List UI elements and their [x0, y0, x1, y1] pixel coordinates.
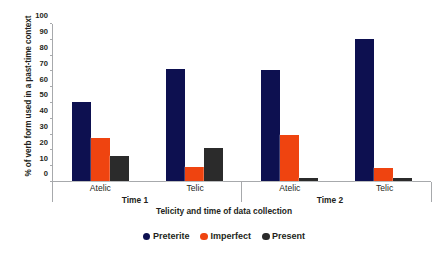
bar-present	[204, 148, 223, 181]
bar-present	[299, 178, 318, 181]
bar-group	[148, 24, 243, 181]
legend-item: Preterite	[143, 232, 190, 241]
x-axis-title: Telicity and time of data collection	[0, 207, 448, 215]
y-axis-tick-label: 20	[40, 139, 48, 147]
y-axis-title: % of verb form used in a past-time conte…	[25, 1, 33, 191]
time-group-separator-right	[431, 182, 432, 202]
time-group-separator-left	[52, 182, 53, 202]
bar-imperfect	[280, 135, 299, 181]
category-labels: AtelicTelicAtelicTelic	[53, 184, 432, 193]
y-axis-tick-label: 10	[40, 155, 48, 163]
legend-swatch-icon	[200, 233, 208, 241]
y-axis-tick-mark	[50, 118, 53, 119]
category-label: Atelic	[53, 184, 148, 193]
time-group-label-2: Time 2	[300, 196, 360, 204]
legend-item: Present	[262, 232, 305, 241]
legend-label: Imperfect	[210, 232, 251, 241]
y-axis-tick-mark	[50, 102, 53, 103]
bar-group	[53, 24, 148, 181]
bar-preterite	[72, 102, 91, 181]
time-group-label-1: Time 1	[105, 196, 165, 204]
bar-preterite	[166, 69, 185, 181]
y-axis-tick-label: 60	[40, 76, 48, 84]
y-axis-tick-label: 70	[40, 60, 48, 68]
y-axis-tick-label: 90	[40, 28, 48, 36]
bar-chart: % of verb form used in a past-time conte…	[0, 0, 448, 257]
chart-legend: PreteriteImperfectPresent	[0, 232, 448, 241]
y-axis-tick-mark	[50, 165, 53, 166]
y-axis-tick-mark	[50, 39, 53, 40]
bar-preterite	[355, 39, 374, 181]
bar-present	[393, 178, 412, 181]
y-axis-tick-mark	[50, 149, 53, 150]
time-group-separator-middle	[241, 182, 242, 202]
y-axis-tick-label: 80	[40, 44, 48, 52]
legend-label: Preterite	[153, 232, 190, 241]
bar-group	[242, 24, 337, 181]
y-axis-tick-mark	[50, 23, 53, 24]
bars-layer	[53, 24, 431, 181]
y-axis-tick-label: 0	[44, 171, 48, 179]
y-axis-tick-mark	[50, 70, 53, 71]
y-axis-tick-mark	[50, 134, 53, 135]
legend-swatch-icon	[262, 233, 270, 241]
legend-item: Imperfect	[200, 232, 251, 241]
bar-present	[110, 156, 129, 181]
bar-preterite	[261, 70, 280, 181]
bar-imperfect	[91, 138, 110, 181]
y-axis-tick-mark	[50, 86, 53, 87]
legend-label: Present	[272, 232, 305, 241]
bar-group	[337, 24, 432, 181]
bar-imperfect	[185, 167, 204, 181]
category-label: Atelic	[243, 184, 338, 193]
y-axis-tick-mark	[50, 55, 53, 56]
y-axis-tick-label: 50	[40, 92, 48, 100]
y-axis-tick-label: 100	[35, 13, 48, 21]
y-axis-tick-label: 40	[40, 107, 48, 115]
plot-area: 0102030405060708090100	[52, 24, 431, 182]
y-axis-tick-label: 30	[40, 123, 48, 131]
category-label: Telic	[337, 184, 432, 193]
legend-swatch-icon	[143, 233, 151, 241]
bar-imperfect	[374, 168, 393, 181]
category-label: Telic	[148, 184, 243, 193]
